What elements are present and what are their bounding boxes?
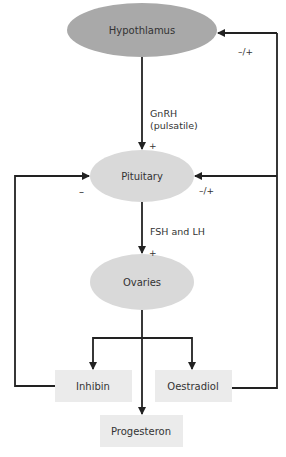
hypothalamus-label: Hypothlamus — [109, 25, 175, 36]
hpo-axis-diagram: Hypothlamus Pituitary Ovaries Inhibin Oe… — [0, 0, 286, 457]
oestradiol-hypothalamus-sign: –/+ — [238, 47, 253, 57]
inhibin-sign: – — [79, 186, 84, 197]
inhibin-branch-arrow — [93, 338, 142, 369]
oestradiol-label: Oestradiol — [167, 381, 218, 392]
ovaries-label: Ovaries — [123, 277, 161, 288]
oestradiol-feedback-line — [232, 33, 277, 388]
gnrh-label: GnRH — [150, 108, 177, 119]
gnrh-pulsatile-label: (pulsatile) — [150, 120, 198, 131]
oestradiol-pituitary-sign: –/+ — [199, 186, 214, 196]
inhibin-feedback-arrow — [15, 176, 89, 386]
oestradiol-branch-arrow — [142, 338, 192, 369]
gnrh-sign: + — [149, 141, 157, 151]
inhibin-label: Inhibin — [76, 381, 110, 392]
fsh-lh-label: FSH and LH — [150, 226, 205, 237]
fsh-lh-sign: + — [149, 248, 157, 258]
pituitary-label: Pituitary — [121, 171, 163, 182]
progesteron-label: Progesteron — [111, 426, 171, 437]
